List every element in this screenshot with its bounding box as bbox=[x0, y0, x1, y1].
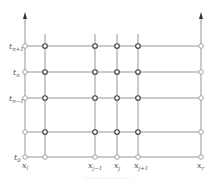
boundary-node bbox=[115, 155, 120, 160]
boundary-node bbox=[199, 44, 204, 49]
label-x-l: xl bbox=[22, 161, 29, 171]
axes bbox=[25, 18, 201, 157]
boundary-node bbox=[136, 155, 141, 160]
boundary-nodes bbox=[23, 44, 204, 160]
boundary-node bbox=[199, 130, 204, 135]
label-t-0: t0 bbox=[14, 153, 21, 163]
boundary-node bbox=[43, 155, 48, 160]
label-t-n-minus-1: tn−1 bbox=[9, 94, 24, 104]
label-x-j-plus-1: xj+1 bbox=[134, 161, 148, 172]
boundary-node bbox=[199, 155, 204, 160]
label-t-n-plus-1: tn+1 bbox=[9, 42, 24, 52]
horizontal-lines bbox=[25, 46, 201, 157]
boundary-node bbox=[199, 96, 204, 101]
label-x-j: xj bbox=[114, 161, 121, 172]
label-x-r: xr bbox=[197, 161, 205, 171]
label-x-j-minus-1: xj−1 bbox=[88, 161, 102, 172]
left-axis-arrow-icon bbox=[23, 12, 27, 19]
boundary-node bbox=[23, 130, 28, 135]
boundary-node bbox=[23, 70, 28, 75]
right-axis-arrow-icon bbox=[199, 12, 203, 19]
boundary-node bbox=[23, 155, 28, 160]
boundary-node bbox=[199, 70, 204, 75]
boundary-node bbox=[93, 155, 98, 160]
figure-caption: ······ ·········· ······· bbox=[83, 174, 131, 181]
label-t-n: tn bbox=[13, 68, 20, 78]
grid-diagram: tn+1 tn tn−1 t0 xl xj−1 xj xj+1 xr ·····… bbox=[0, 0, 214, 182]
interior-nodes bbox=[43, 44, 141, 135]
interior-verticals bbox=[45, 34, 138, 157]
